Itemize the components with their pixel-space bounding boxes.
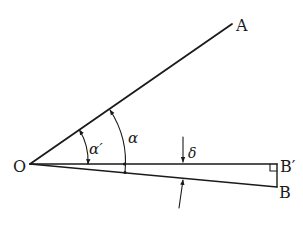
label-delta: δ xyxy=(188,145,196,161)
line-OB xyxy=(30,164,277,187)
angle-diagram: O A B′ B α′ α δ xyxy=(0,0,303,230)
label-O: O xyxy=(13,157,26,176)
label-B: B xyxy=(279,183,291,202)
alpha-prime-arc xyxy=(80,130,89,164)
alpha-arc xyxy=(110,110,125,172)
label-A: A xyxy=(235,16,248,35)
delta-arrow-bottom xyxy=(179,180,183,208)
alpha-arc-end-dot xyxy=(123,171,126,174)
label-alpha: α xyxy=(128,129,138,147)
label-alpha-prime: α′ xyxy=(89,140,103,158)
diagram-canvas: O A B′ B α′ α δ xyxy=(0,0,303,230)
label-B-prime: B′ xyxy=(280,157,296,176)
right-angle-marker xyxy=(270,164,277,171)
alpha-arc-dot xyxy=(123,162,126,165)
